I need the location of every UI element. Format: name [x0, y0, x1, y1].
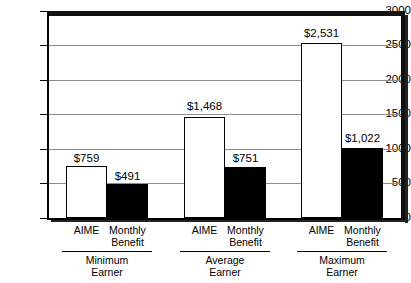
x-axis-label-line1: Monthly	[227, 224, 264, 236]
y-axis-line	[47, 11, 49, 219]
x-axis-label-average-earner-monthly-benefit: Monthly Benefit	[215, 225, 276, 248]
bar-value-maximum-earner-aime: $2,531	[291, 27, 352, 39]
group-label-line1: Average	[206, 254, 245, 266]
x-axis-label-minimum-earner-monthly-benefit: Monthly Benefit	[97, 225, 158, 248]
x-axis-label-line2: Benefit	[215, 237, 276, 249]
group-label-line1: Maximum	[319, 254, 365, 266]
x-axis-label-line2: Benefit	[97, 237, 158, 249]
group-label-minimum-earner: Minimum Earner	[62, 255, 152, 278]
gridline-1500	[49, 114, 401, 115]
group-label-line1: Minimum	[86, 254, 129, 266]
group-rule-minimum-earner	[62, 251, 152, 252]
x-axis-label-line1: AIME	[309, 224, 335, 236]
bar-value-average-earner-monthly-benefit: $751	[215, 152, 276, 164]
bar-maximum-earner-aime	[301, 43, 342, 218]
bar-value-minimum-earner-monthly-benefit: $491	[97, 170, 158, 182]
x-axis-label-line2: Benefit	[332, 237, 393, 249]
group-rule-average-earner	[180, 251, 270, 252]
bar-value-maximum-earner-monthly-benefit: $1,022	[332, 132, 393, 144]
gridline-2000	[49, 80, 401, 81]
gridline-2500	[49, 45, 401, 46]
x-axis-label-line1: Monthly	[344, 224, 381, 236]
group-label-line2: Earner	[297, 267, 387, 279]
group-rule-maximum-earner	[297, 251, 387, 252]
x-axis-label-line1: Monthly	[109, 224, 146, 236]
group-label-average-earner: Average Earner	[180, 255, 270, 278]
bar-value-average-earner-aime: $1,468	[174, 100, 235, 112]
bar-average-earner-monthly-benefit	[225, 167, 266, 218]
bar-maximum-earner-monthly-benefit	[342, 148, 383, 218]
bar-chart: 3000 2500 2000 1500 1000 500 0 $759 $491…	[0, 0, 411, 283]
x-axis-label-maximum-earner-monthly-benefit: Monthly Benefit	[332, 225, 393, 248]
group-label-line2: Earner	[62, 267, 152, 279]
x-axis-label-line1: AIME	[74, 224, 100, 236]
bar-average-earner-aime	[184, 117, 225, 218]
x-axis-line	[47, 218, 405, 220]
bar-minimum-earner-monthly-benefit	[107, 184, 148, 218]
plot-area-right-shadow	[405, 15, 408, 223]
bar-value-minimum-earner-aime: $759	[56, 152, 117, 164]
x-axis-label-line1: AIME	[192, 224, 218, 236]
group-label-line2: Earner	[180, 267, 270, 279]
group-label-maximum-earner: Maximum Earner	[297, 255, 387, 278]
plot-area-top-border	[47, 11, 405, 16]
